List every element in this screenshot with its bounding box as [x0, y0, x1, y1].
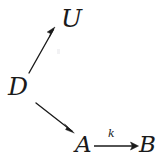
edge-label-k: k — [108, 128, 115, 139]
edge-d-to-a-shaft — [36, 103, 72, 131]
edge-d-to-a — [36, 103, 74, 133]
commutative-diagram: U D A B k — [0, 0, 157, 165]
arrowhead-icon — [65, 124, 75, 133]
node-label-u: U — [61, 6, 82, 31]
node-label-d: D — [8, 74, 28, 99]
edge-d-to-u — [29, 27, 55, 73]
node-label-b: B — [139, 133, 156, 156]
arrowhead-icon — [47, 27, 55, 37]
scan-artifact — [57, 49, 60, 54]
node-label-a: A — [75, 133, 92, 156]
edge-a-to-b — [94, 142, 139, 150]
